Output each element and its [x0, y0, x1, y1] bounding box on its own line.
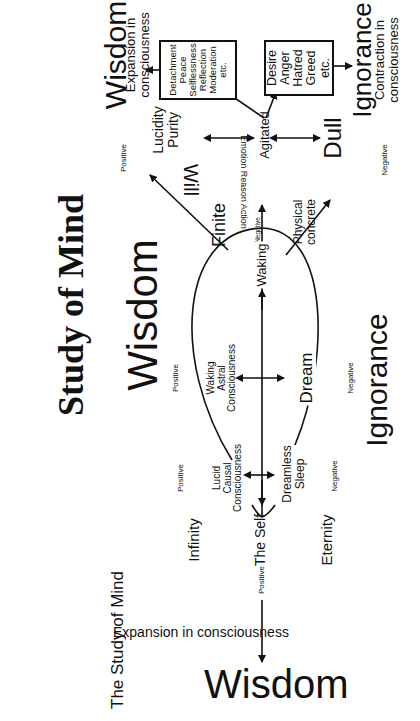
the-self-label: The Self	[253, 514, 268, 566]
finite-label: Finite	[210, 203, 229, 247]
agitated-label: Agitated	[258, 111, 272, 159]
page-title: Study of Mind	[53, 194, 91, 416]
contraction-label: Contraction in consciousness	[373, 17, 400, 102]
waking-astral-label: Waking Astral Consciousness	[206, 344, 238, 412]
expansion-top-label: Expansion in consciousness	[124, 12, 151, 97]
negative-label: Negative	[347, 362, 355, 394]
emotion-reason-action-label: Emotion Reason Action	[238, 135, 247, 229]
caption: The Study of Mind	[109, 571, 127, 709]
dreamless-sleep-label: Dreamless Sleep	[281, 445, 306, 502]
dull-label: Dull	[320, 117, 345, 158]
vices-box: Desire Anger Hatred Greed etc.	[264, 40, 334, 96]
waking-label: Waking	[255, 242, 269, 289]
dream-label: Dream	[298, 350, 316, 405]
study-of-mind-diagram: Study of Mind The Study of Mind Wisdom E…	[0, 0, 420, 721]
vice-item: Greed	[306, 49, 319, 87]
mind-ellipse-lower	[262, 228, 318, 445]
eternity-label: Eternity	[319, 515, 335, 566]
virtues-list: Detachment Peace Selflessness Reflection…	[168, 43, 228, 96]
negative-label: Negative	[381, 144, 389, 176]
expansion-bottom-label: Expansion in consciousness	[113, 624, 289, 640]
lucidity-purity-label: Lucidity Purity	[151, 106, 180, 153]
positive-label: Positive	[120, 144, 128, 172]
lucid-causal-label: Lucid Causal Consciousness	[212, 444, 244, 512]
negative-label: Negative	[255, 217, 262, 243]
virtues-box: Detachment Peace Selflessness Reflection…	[159, 40, 237, 100]
positive-label: Positive	[172, 364, 180, 392]
virtue-item: etc.	[218, 43, 228, 96]
will-label: Will	[180, 164, 201, 196]
negative-label: Negative	[331, 460, 339, 492]
vices-list: Desire Anger Hatred Greed etc.	[266, 49, 332, 87]
positive-label: Positive	[258, 566, 266, 594]
positive-label: Positive	[177, 464, 185, 492]
infinity-label: Infinity	[186, 518, 202, 561]
wisdom-mid-label: Wisdom	[121, 239, 165, 391]
vice-item: etc.	[319, 49, 332, 87]
ignorance-mid-label: Ignorance	[361, 313, 393, 446]
physical-concrete-label: Physical concrete	[292, 199, 317, 245]
wisdom-bottom-label: Wisdom	[204, 664, 348, 704]
